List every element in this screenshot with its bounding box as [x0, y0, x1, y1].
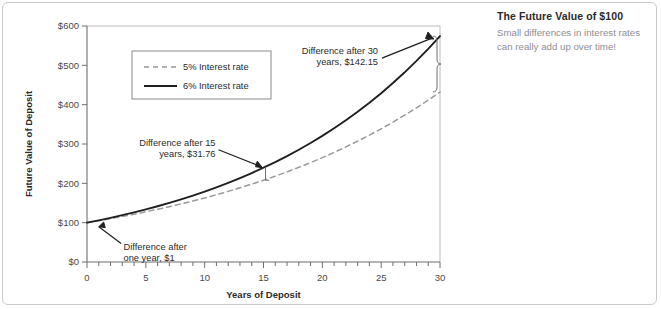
annotation-30-line1: Difference after 30: [302, 46, 378, 56]
x-axis-title: Years of Deposit: [226, 289, 301, 300]
future-value-line-chart: $0$100$200$300$400$500$600051015202530Ye…: [4, 4, 466, 302]
x-tick-label: 30: [435, 272, 446, 283]
screenshot-root: $0$100$200$300$400$500$600051015202530Ye…: [0, 0, 661, 309]
x-tick-label: 10: [199, 272, 210, 283]
annotation-leader-30: [382, 38, 432, 58]
legend-label-2: 6% Interest rate: [183, 81, 249, 91]
y-tick-label: $0: [68, 256, 79, 267]
sidebar-callout: The Future Value of $100 Small differenc…: [497, 10, 647, 53]
annotation-arrowhead-one-year: [99, 222, 106, 228]
annotation-15-line2: years, $31.76: [159, 149, 215, 159]
legend-label-1: 5% Interest rate: [183, 62, 249, 72]
y-tick-label: $100: [58, 217, 79, 228]
annotation-one-year-line2: one year, $1: [123, 253, 174, 263]
sidebar-body: Small differences in interest rates can …: [497, 26, 647, 53]
x-tick-label: 5: [143, 272, 148, 283]
y-axis-title: Future Value of Deposit: [23, 90, 34, 197]
annotation-leader-one-year: [99, 227, 121, 244]
sidebar-title: The Future Value of $100: [497, 10, 647, 23]
y-tick-label: $300: [58, 138, 79, 149]
annotation-15-line1: Difference after 15: [139, 138, 215, 148]
legend-box: [132, 51, 271, 99]
x-tick-label: 20: [317, 272, 328, 283]
annotation-arrowhead-30: [426, 32, 435, 39]
y-tick-label: $200: [58, 178, 79, 189]
x-tick-label: 15: [258, 272, 269, 283]
annotation-arrowhead-15: [256, 161, 263, 168]
chart-container: $0$100$200$300$400$500$600051015202530Ye…: [4, 4, 466, 302]
x-tick-label: 0: [84, 272, 89, 283]
annotation-one-year-line1: Difference after: [123, 242, 186, 252]
series-line-1: [87, 92, 440, 223]
y-tick-label: $600: [58, 20, 79, 31]
annotation-leader-15: [219, 150, 262, 167]
annotation-30-line2: years, $142.15: [316, 57, 378, 67]
y-tick-label: $400: [58, 99, 79, 110]
x-tick-label: 25: [376, 272, 387, 283]
y-tick-label: $500: [58, 60, 79, 71]
